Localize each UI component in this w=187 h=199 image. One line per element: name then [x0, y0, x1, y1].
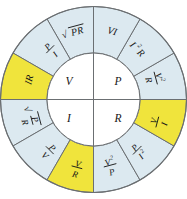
ohms-law-wheel: V P I R √ PR VI I 2 R V 2 R V I P I 2 V — [0, 0, 187, 199]
core-letter-p: P — [113, 75, 121, 87]
core-letter-r: R — [113, 112, 121, 124]
